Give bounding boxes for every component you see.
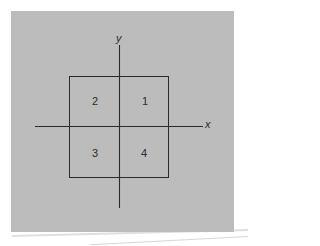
x-axis-label: x	[205, 119, 211, 130]
quadrant-2-label: 2	[92, 96, 98, 107]
quadrant-4-label: 4	[141, 148, 147, 159]
quadrant-3-label: 3	[92, 148, 98, 159]
quadrant-1-label: 1	[142, 96, 148, 107]
y-axis-label: y	[116, 33, 122, 44]
